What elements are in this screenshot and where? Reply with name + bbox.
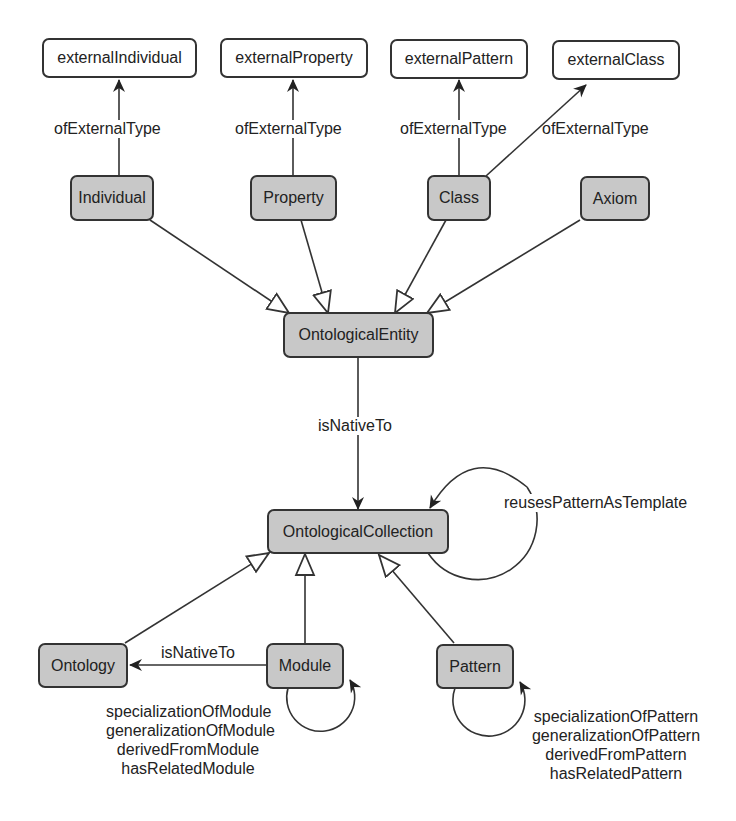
node-ontology: Ontology <box>38 643 128 688</box>
edge-ontology-subclass <box>125 553 269 643</box>
label-line: hasRelatedModule <box>106 759 270 778</box>
label-line: derivedFromModule <box>106 740 270 759</box>
node-label: Property <box>263 189 323 207</box>
edge-label-of-external-type: ofExternalType <box>52 120 163 138</box>
node-external-pattern: externalPattern <box>390 39 528 79</box>
node-label: externalIndividual <box>57 49 182 67</box>
node-axiom: Axiom <box>580 176 650 221</box>
label-line: generalizationOfPattern <box>526 726 706 745</box>
node-property: Property <box>250 175 337 221</box>
node-pattern: Pattern <box>436 644 514 689</box>
node-ontological-collection: OntologicalCollection <box>267 509 449 554</box>
edge-label-pattern-relations: specializationOfPattern generalizationOf… <box>524 707 708 783</box>
edge-class-subclass <box>395 220 446 313</box>
node-external-property: externalProperty <box>220 38 368 78</box>
edge-pattern-self-loop <box>453 682 525 736</box>
node-label: Ontology <box>51 657 115 675</box>
node-external-individual: externalIndividual <box>42 38 197 78</box>
edge-label-of-external-type: ofExternalType <box>540 120 651 138</box>
node-label: Class <box>439 189 479 207</box>
node-label: externalClass <box>568 51 665 69</box>
node-label: Pattern <box>449 658 501 676</box>
edge-axiom-subclass <box>427 220 580 313</box>
edge-label-of-external-type: ofExternalType <box>233 120 344 138</box>
label-line: hasRelatedPattern <box>526 764 706 783</box>
node-external-class: externalClass <box>552 40 680 80</box>
edge-label-of-external-type: ofExternalType <box>398 120 509 138</box>
node-class: Class <box>427 175 491 221</box>
label-line: generalizationOfModule <box>106 721 270 740</box>
node-label: Individual <box>78 189 146 207</box>
edge-individual-subclass <box>150 220 289 313</box>
node-label: OntologicalCollection <box>283 523 433 541</box>
node-label: Module <box>279 657 331 675</box>
node-label: Axiom <box>593 190 637 208</box>
label-line: specializationOfPattern <box>526 707 706 726</box>
node-label: externalPattern <box>405 50 514 68</box>
node-label: OntologicalEntity <box>298 326 418 344</box>
edge-property-subclass <box>301 220 328 313</box>
label-line: derivedFromPattern <box>526 745 706 764</box>
node-label: externalProperty <box>235 49 352 67</box>
edge-label-module-relations: specializationOfModule generalizationOfM… <box>104 702 272 778</box>
edge-label-module-is-native-to: isNativeTo <box>159 644 237 662</box>
edge-label-reuses-pattern-as-template: reusesPatternAsTemplate <box>502 494 689 512</box>
node-module: Module <box>266 643 344 689</box>
ontology-diagram: externalIndividual externalProperty exte… <box>0 0 736 821</box>
label-line: specializationOfModule <box>106 702 270 721</box>
node-individual: Individual <box>70 175 154 221</box>
edge-label-is-native-to: isNativeTo <box>316 417 394 435</box>
node-ontological-entity: OntologicalEntity <box>283 312 434 358</box>
